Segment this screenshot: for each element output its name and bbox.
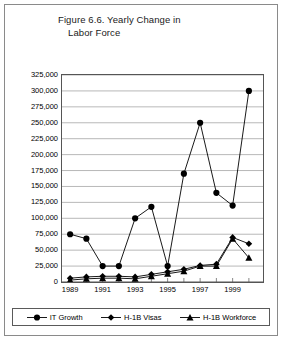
legend-item[interactable]: IT Growth — [26, 313, 83, 322]
y-axis-tick-label: 75,000 — [35, 230, 58, 238]
y-axis-tick-label: 175,000 — [31, 167, 58, 175]
x-axis-tick-label: 1999 — [224, 285, 241, 294]
x-axis-tick-label: 1991 — [94, 285, 111, 294]
legend-item[interactable]: H-1B Visas — [100, 313, 161, 322]
x-axis-tick-label: 1995 — [159, 285, 176, 294]
legend-item-label: IT Growth — [50, 313, 83, 322]
series-line — [70, 91, 249, 266]
y-axis-tick-label: 25,000 — [35, 262, 58, 270]
plot-wrapper: 325,000300,000275,000250,000225,000200,0… — [10, 74, 272, 289]
circle-marker-icon — [67, 231, 73, 237]
chart-legend: IT GrowthH-1B VisasH-1B Workforce — [12, 308, 270, 326]
y-axis-tick-label: 50,000 — [35, 246, 58, 254]
figure-title: Figure 6.6. Yearly Change in Labor Force — [58, 13, 258, 39]
series-line — [70, 239, 249, 280]
x-axis-tick-label: 1993 — [127, 285, 144, 294]
circle-marker-icon — [197, 120, 203, 126]
diamond-marker-icon — [246, 240, 253, 247]
y-axis-tick-label: 325,000 — [31, 71, 58, 79]
triangle-marker-icon — [179, 313, 201, 322]
series-h-1b-visas — [67, 234, 252, 281]
circle-marker-icon — [181, 171, 187, 177]
x-axis-tick-label: 1989 — [62, 285, 79, 294]
y-axis-tick-label: 125,000 — [31, 198, 58, 206]
diamond-marker-icon — [108, 314, 115, 321]
circle-marker-icon — [83, 236, 89, 242]
y-axis-tick-label: 250,000 — [31, 119, 58, 127]
circle-marker-icon — [165, 263, 171, 269]
x-axis-labels: 198919911993199519971999 — [61, 285, 264, 301]
plot-area — [61, 74, 264, 283]
figure-title-line-2: Labor Force — [58, 26, 258, 39]
y-axis-tick-label: 100,000 — [31, 214, 58, 222]
circle-marker-icon — [116, 263, 122, 269]
series-h-1b-workforce — [67, 235, 253, 282]
circle-marker-icon — [246, 88, 252, 94]
circle-marker-icon — [148, 204, 154, 210]
diamond-marker-icon — [100, 313, 122, 322]
circle-marker-icon — [34, 314, 40, 320]
circle-marker-icon — [132, 215, 138, 221]
chart-plot-svg — [62, 75, 263, 282]
y-axis-tick-label: 300,000 — [31, 87, 58, 95]
circle-marker-icon — [230, 202, 236, 208]
legend-item-label: H-1B Visas — [124, 313, 161, 322]
y-axis-tick-label: 225,000 — [31, 135, 58, 143]
circle-marker-icon — [26, 313, 48, 322]
figure-title-line-1: Figure 6.6. Yearly Change in — [58, 13, 258, 26]
y-axis-tick-label: 275,000 — [31, 103, 58, 111]
x-axis-tick-label: 1997 — [192, 285, 209, 294]
figure-container: Figure 6.6. Yearly Change in Labor Force… — [0, 0, 282, 340]
circle-marker-icon — [100, 263, 106, 269]
y-axis-labels: 325,000300,000275,000250,000225,000200,0… — [10, 74, 58, 283]
y-axis-tick-label: 0 — [54, 278, 58, 286]
series-line — [70, 237, 249, 278]
y-axis-tick-label: 200,000 — [31, 151, 58, 159]
legend-item[interactable]: H-1B Workforce — [179, 313, 256, 322]
series-it-growth — [67, 88, 252, 269]
legend-item-label: H-1B Workforce — [203, 313, 256, 322]
circle-marker-icon — [213, 190, 219, 196]
y-axis-tick-label: 150,000 — [31, 182, 58, 190]
